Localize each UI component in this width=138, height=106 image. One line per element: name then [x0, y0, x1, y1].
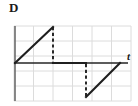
waveform-plot: .gl { stroke: #dcdcdc; stroke-width: 1; … — [0, 0, 138, 106]
waveform-figure-panel: D .gl { stroke: #dcdcdc; stroke-width: 1… — [0, 0, 138, 106]
x-axis-label: t — [127, 50, 130, 62]
